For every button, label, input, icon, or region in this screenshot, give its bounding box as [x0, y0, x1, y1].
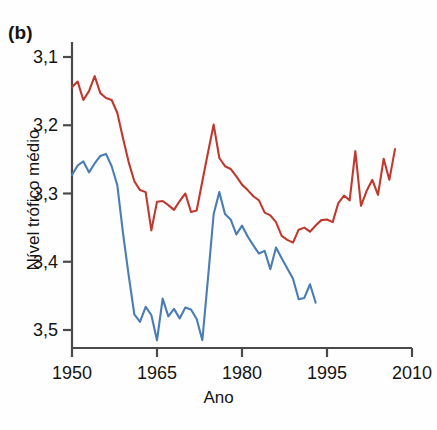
y-axis-tick-label: 3,1: [33, 47, 58, 67]
data-series-layer: [72, 76, 395, 340]
x-axis-tick-label: 1950: [52, 363, 92, 383]
x-axis-tick-label: 1965: [137, 363, 177, 383]
y-axis-tick-label: 3,4: [33, 252, 58, 272]
y-axis-tick-labels: 3,53,43,33,23,1: [33, 47, 58, 340]
figure-panel-b: (b) Nível trófico médio Ano 3,53,43,33,2…: [0, 0, 437, 430]
y-axis-tick-marks: [63, 57, 72, 330]
y-axis-tick-label: 3,5: [33, 320, 58, 340]
y-axis-tick-label: 3,3: [33, 184, 58, 204]
line-chart-plot: 3,53,43,33,23,1 19501965198019952010: [0, 0, 437, 430]
x-axis-tick-marks: [72, 348, 412, 357]
y-axis-tick-label: 3,2: [33, 115, 58, 135]
x-axis-tick-labels: 19501965198019952010: [52, 363, 432, 383]
x-axis-tick-label: 2010: [392, 363, 432, 383]
x-axis-tick-label: 1995: [307, 363, 347, 383]
series-line-serie-azul: [72, 154, 316, 340]
axis-lines: [72, 42, 412, 348]
x-axis-tick-label: 1980: [222, 363, 262, 383]
